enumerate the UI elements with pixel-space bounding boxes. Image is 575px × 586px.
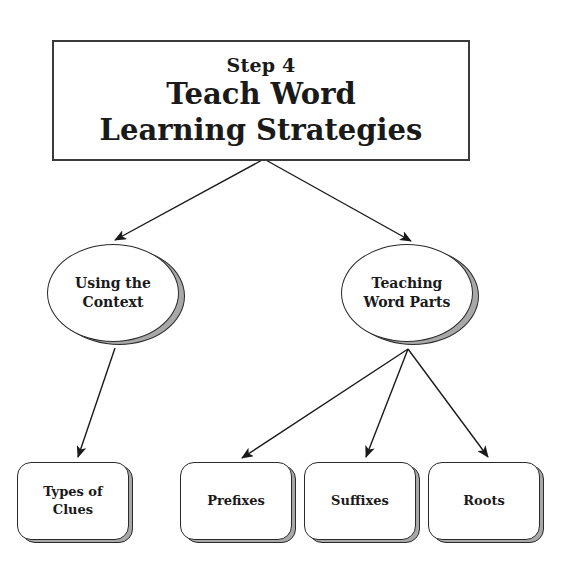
arrow-word-parts-to-suffixes [366,349,408,457]
branch-using-context: Using the Context [47,244,179,342]
branch-label-line-2: Word Parts [364,293,451,312]
arrow-word-parts-to-prefixes [242,349,408,458]
node-face: Prefixes [180,462,292,540]
branch-label-line-2: Context [83,293,144,312]
arrow-context-to-clues [78,348,115,457]
leaf-label: Suffixes [331,492,389,510]
leaf-label: Roots [463,492,504,510]
title-line-2: Learning Strategies [54,112,468,148]
arrow-word-parts-to-roots [408,349,488,457]
leaf-label-line-1: Types of [43,483,102,501]
diagram-canvas: Step 4 Teach Word Learning Strategies Us… [0,0,575,586]
branch-label-line-1: Teaching [372,274,443,293]
node-face: Roots [428,462,540,540]
leaf-prefixes: Prefixes [180,462,292,540]
node-face: Suffixes [304,462,416,540]
ellipse-face: Teaching Word Parts [341,244,473,342]
leaf-label-line-2: Clues [53,501,93,519]
leaf-suffixes: Suffixes [304,462,416,540]
title-box: Step 4 Teach Word Learning Strategies [52,40,470,161]
node-face: Types of Clues [17,462,129,540]
leaf-label: Prefixes [207,492,265,510]
arrow-title-to-word-parts [264,159,411,241]
arrow-title-to-context [115,159,264,240]
ellipse-face: Using the Context [47,244,179,342]
leaf-types-of-clues: Types of Clues [17,462,129,540]
leaf-roots: Roots [428,462,540,540]
branch-label-line-1: Using the [75,274,151,293]
step-label: Step 4 [54,54,468,76]
branch-teaching-word-parts: Teaching Word Parts [341,244,473,342]
title-line-1: Teach Word [54,76,468,112]
